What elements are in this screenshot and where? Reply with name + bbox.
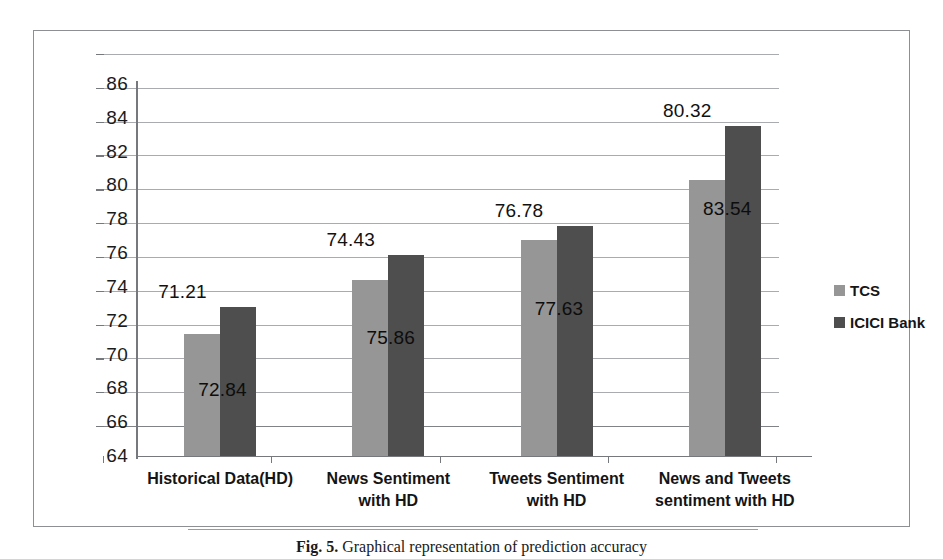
y-axis-labels: 868482807876747270686664 [78, 84, 128, 456]
legend-label: TCS [850, 282, 880, 299]
legend-swatch-icon [834, 285, 845, 296]
y-axis-tick-label: 80 [106, 174, 128, 196]
data-label-icici-bank: 77.63 [535, 298, 584, 320]
y-axis-tick-label: 82 [106, 141, 128, 163]
figure-caption: Fig. 5. Graphical representation of pred… [0, 538, 943, 556]
y-axis-tick-label: 78 [106, 208, 128, 230]
data-label-icici-bank: 72.84 [198, 379, 247, 401]
category-label-line: with HD [467, 490, 647, 512]
legend-item-tcs[interactable]: TCS [834, 281, 939, 299]
y-axis-tick-label: 86 [106, 73, 128, 95]
x-axis-tick-mark [608, 456, 609, 463]
category-label-line: News and Tweets [635, 468, 815, 490]
x-axis-tick-mark [271, 456, 272, 463]
gridline [103, 54, 779, 55]
x-axis-category-label: Tweets Sentimentwith HD [467, 468, 647, 511]
data-label-tcs: 74.43 [326, 229, 375, 251]
bar-tcs[interactable] [521, 240, 557, 456]
bar-tcs[interactable] [689, 180, 725, 456]
caption-figure-number: Fig. 5. [296, 538, 338, 555]
category-label-line: Tweets Sentiment [467, 468, 647, 490]
chart-legend: TCSICICI Bank [834, 281, 939, 345]
category-label-line: News Sentiment [298, 468, 478, 490]
legend-item-icici-bank[interactable]: ICICI Bank [834, 313, 939, 331]
y-axis-tick-label: 70 [106, 344, 128, 366]
data-label-tcs: 80.32 [663, 100, 712, 122]
data-label-icici-bank: 83.54 [703, 198, 752, 220]
x-axis-tick-mark [776, 456, 777, 463]
legend-swatch-icon [834, 317, 845, 328]
x-axis-tick-mark [103, 456, 104, 463]
bar-tcs[interactable] [352, 280, 388, 456]
y-axis-tick-mark [96, 54, 104, 55]
caption-text: Graphical representation of prediction a… [342, 538, 647, 555]
figure-container: 868482807876747270686664 71.2172.8474.43… [0, 0, 943, 559]
y-axis-tick-label: 84 [106, 107, 128, 129]
y-axis-tick-label: 72 [106, 310, 128, 332]
category-label-line: with HD [298, 490, 478, 512]
legend-label: ICICI Bank [850, 314, 925, 331]
y-axis-tick-label: 76 [106, 242, 128, 264]
chart-frame: 868482807876747270686664 71.2172.8474.43… [33, 30, 910, 527]
data-label-tcs: 76.78 [495, 200, 544, 222]
caption-rule [188, 529, 758, 530]
bar-icici-bank[interactable] [725, 126, 761, 456]
x-axis-category-label: News and Tweetssentiment with HD [635, 468, 815, 511]
x-axis-category-label: Historical Data(HD) [130, 468, 310, 490]
y-axis-tick-label: 74 [106, 276, 128, 298]
y-axis-tick-label: 68 [106, 377, 128, 399]
category-label-line: Historical Data(HD) [130, 468, 310, 490]
x-axis-tick-mark [440, 456, 441, 463]
bar-icici-bank[interactable] [388, 255, 424, 456]
bar-icici-bank[interactable] [557, 226, 593, 456]
x-axis-category-label: News Sentimentwith HD [298, 468, 478, 511]
x-axis-category-labels: Historical Data(HD)News Sentimentwith HD… [136, 468, 812, 528]
y-axis-tick-label: 64 [106, 445, 128, 467]
plot-area: 71.2172.8474.4375.8676.7877.6380.3283.54 [136, 84, 809, 456]
data-label-icici-bank: 75.86 [366, 327, 415, 349]
data-label-tcs: 71.21 [158, 281, 207, 303]
x-axis-line [136, 456, 812, 457]
category-label-line: sentiment with HD [635, 490, 815, 512]
y-axis-tick-label: 66 [106, 411, 128, 433]
